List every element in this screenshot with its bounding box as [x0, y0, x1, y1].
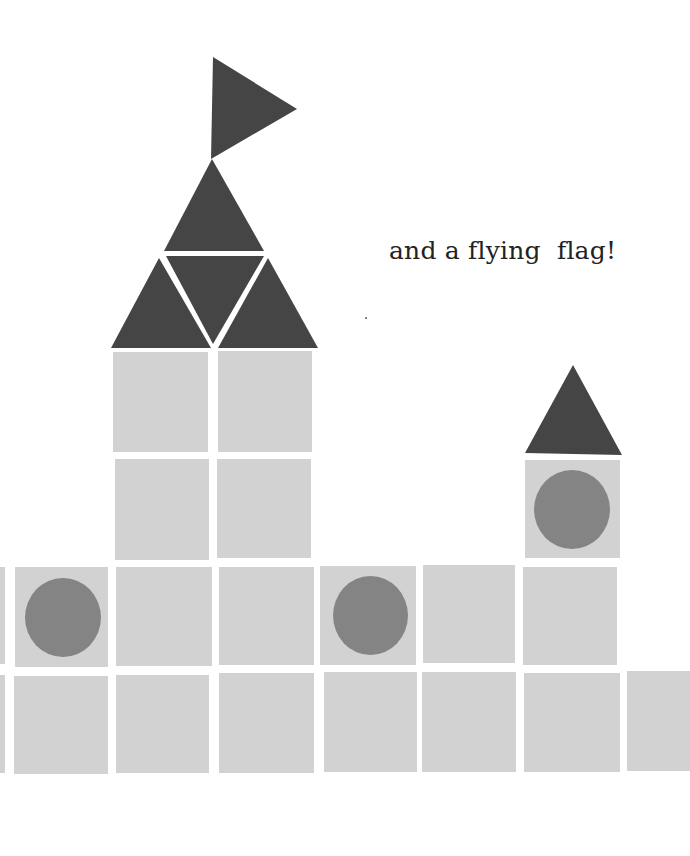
tower-block	[115, 459, 209, 560]
wall-block	[219, 673, 314, 773]
tower-block	[217, 459, 311, 558]
wall-block	[116, 567, 212, 666]
small-tower-roof-triangle	[525, 365, 622, 455]
wall-block	[524, 673, 620, 772]
tower-block	[113, 352, 208, 452]
ink-speck	[365, 317, 367, 319]
wall-block	[324, 672, 417, 772]
caption-text: and a flying flag!	[389, 236, 616, 265]
wall-block-partial	[0, 675, 5, 773]
wall-block	[14, 676, 108, 774]
wall-block	[523, 567, 617, 665]
window-circle	[333, 576, 408, 655]
roof-right-triangle	[218, 258, 318, 348]
tower-block	[218, 351, 312, 452]
roof-top-triangle	[164, 159, 264, 251]
wall-block	[116, 675, 209, 773]
window-circle	[25, 578, 101, 657]
wall-block	[422, 672, 516, 772]
wall-block-partial	[0, 567, 5, 664]
wall-block	[219, 567, 314, 665]
window-circle	[534, 470, 610, 549]
flag-triangle	[211, 57, 299, 159]
wall-block-partial	[627, 671, 690, 771]
wall-block	[423, 565, 515, 663]
